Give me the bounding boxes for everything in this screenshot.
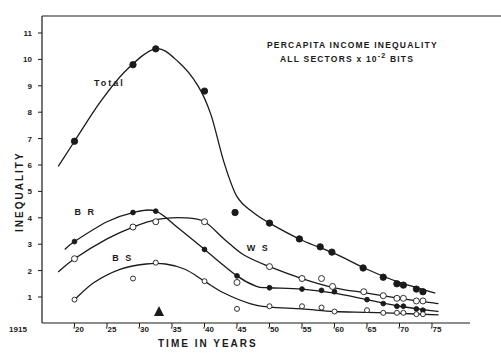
y-tick-label: 6 bbox=[28, 161, 33, 170]
y-tick-label: 9 bbox=[28, 82, 33, 91]
x-axis-ticks: 1915'20'25'30'35'40'45'50'55'60'65'70'75 bbox=[9, 323, 442, 334]
data-point-bs bbox=[202, 279, 207, 284]
series-label-br: B R bbox=[75, 207, 97, 217]
title-suffix: BITS bbox=[386, 54, 414, 64]
x-tick-label: '65 bbox=[366, 325, 377, 334]
x-tick-label: '75 bbox=[431, 325, 442, 334]
x-tick-label: '35 bbox=[171, 325, 182, 334]
data-point-total bbox=[296, 236, 302, 242]
data-point-ws bbox=[299, 276, 305, 282]
y-tick-label: 5 bbox=[28, 187, 33, 196]
x-tick-label: '25 bbox=[106, 325, 117, 334]
data-point-ws bbox=[72, 256, 78, 262]
chart-canvas: 1234567891011 1915'20'25'30'35'40'45'50'… bbox=[0, 0, 501, 353]
data-point-ws bbox=[130, 224, 136, 230]
data-point-ws bbox=[319, 276, 325, 282]
data-point-total bbox=[201, 88, 207, 94]
data-point-br bbox=[414, 306, 419, 311]
y-tick-label: 11 bbox=[24, 29, 33, 38]
plot-frame bbox=[42, 16, 501, 323]
title-prefix: ALL SECTORS x 10 bbox=[280, 54, 378, 64]
x-axis-title: TIME IN YEARS bbox=[158, 338, 258, 349]
data-point-ws bbox=[330, 283, 336, 289]
data-point-total bbox=[360, 265, 366, 271]
y-tick-label: 7 bbox=[28, 135, 33, 144]
data-point-bs bbox=[153, 260, 158, 265]
data-point-total bbox=[71, 138, 77, 144]
data-point-total bbox=[380, 274, 386, 280]
data-point-ws bbox=[202, 219, 208, 225]
data-point-total bbox=[329, 249, 335, 255]
data-point-total bbox=[153, 46, 159, 52]
data-point-bs bbox=[401, 310, 406, 315]
data-point-br bbox=[202, 247, 207, 252]
data-point-bs bbox=[131, 276, 136, 281]
y-axis-title: INEQUALITY bbox=[14, 151, 25, 232]
chart-title-line2: ALL SECTORS x 10-2 BITS bbox=[280, 52, 414, 64]
data-point-br bbox=[267, 285, 272, 290]
data-point-ws bbox=[380, 293, 386, 299]
data-point-ws bbox=[234, 279, 240, 285]
data-point-ws bbox=[400, 295, 406, 301]
series-label-total: Total bbox=[94, 78, 125, 88]
data-point-bs bbox=[235, 306, 240, 311]
data-point-br bbox=[395, 304, 400, 309]
y-tick-label: 2 bbox=[28, 267, 33, 276]
data-point-bs bbox=[394, 310, 399, 315]
x-tick-label: '45 bbox=[236, 325, 247, 334]
y-tick-label: 1 bbox=[28, 293, 33, 302]
x-tick-label: '40 bbox=[203, 325, 214, 334]
data-point-br bbox=[332, 289, 337, 294]
data-point-br bbox=[300, 287, 305, 292]
data-point-total bbox=[232, 209, 238, 215]
data-point-ws bbox=[420, 298, 426, 304]
series-label-ws: W S bbox=[247, 243, 270, 253]
data-point-total bbox=[266, 220, 272, 226]
data-point-br bbox=[381, 301, 386, 306]
series-labels: TotalB RW SB S bbox=[75, 78, 270, 264]
x-tick-label: '60 bbox=[333, 325, 344, 334]
x-tick-label: 1915 bbox=[9, 325, 27, 334]
data-point-ws bbox=[267, 264, 273, 270]
x-tick-label: '55 bbox=[301, 325, 312, 334]
y-axis-ticks: 1234567891011 bbox=[23, 29, 42, 302]
data-point-bs bbox=[72, 297, 77, 302]
data-point-bs bbox=[381, 310, 386, 315]
data-point-bs bbox=[267, 304, 272, 309]
x-tick-label: '20 bbox=[73, 325, 84, 334]
data-point-total bbox=[420, 289, 426, 295]
title-exponent: -2 bbox=[378, 52, 387, 59]
chart-title-line1: PERCAPITA INCOME INEQUALITY bbox=[267, 40, 438, 50]
data-point-total bbox=[130, 61, 136, 67]
data-point-br bbox=[131, 210, 136, 215]
data-point-total bbox=[317, 244, 323, 250]
y-tick-label: 3 bbox=[28, 240, 33, 249]
data-point-ws bbox=[394, 295, 400, 301]
x-tick-label: '30 bbox=[138, 325, 149, 334]
data-point-ws bbox=[413, 298, 419, 304]
curve-bs bbox=[75, 263, 439, 315]
data-point-total bbox=[394, 281, 400, 287]
data-point-bs bbox=[300, 304, 305, 309]
data-point-bs bbox=[332, 309, 337, 314]
data-point-total bbox=[413, 286, 419, 292]
data-point-br bbox=[235, 273, 240, 278]
data-point-total bbox=[400, 282, 406, 288]
data-point-br bbox=[153, 209, 158, 214]
y-tick-label: 10 bbox=[23, 55, 32, 64]
data-point-ws bbox=[361, 289, 367, 295]
data-point-br bbox=[319, 288, 324, 293]
data-point-br bbox=[401, 304, 406, 309]
data-point-br bbox=[365, 297, 370, 302]
x-tick-label: '70 bbox=[398, 325, 409, 334]
triangle-marker-icon bbox=[154, 306, 164, 316]
data-point-bs bbox=[414, 312, 419, 317]
data-point-bs bbox=[365, 308, 370, 313]
data-point-ws bbox=[153, 219, 159, 225]
y-tick-label: 8 bbox=[28, 108, 33, 117]
series-label-bs: B S bbox=[112, 253, 133, 263]
data-point-bs bbox=[319, 305, 324, 310]
data-point-bs bbox=[420, 312, 425, 317]
data-point-br bbox=[72, 239, 77, 244]
x-tick-label: '50 bbox=[268, 325, 279, 334]
